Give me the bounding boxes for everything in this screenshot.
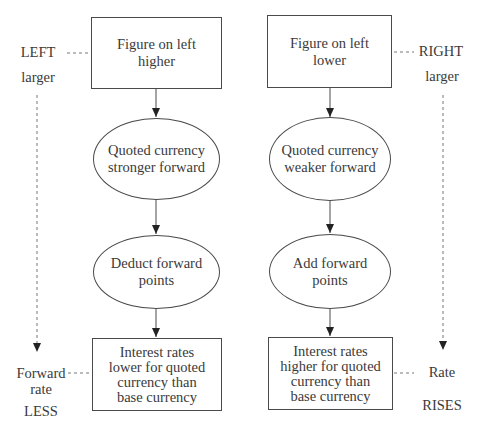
label-rate: rate: [13, 381, 69, 398]
label-right-larger: larger: [418, 68, 466, 85]
left-ellipse-stronger: Quoted currency stronger forward: [93, 118, 220, 200]
left-dashed-arrowhead: [33, 343, 41, 352]
right-ellipse-1-text: Quoted currency weaker forward: [281, 142, 378, 176]
dashed-connectors: [37, 52, 443, 373]
right-ellipse-add: Add forward points: [269, 234, 391, 309]
left-start-box: Figure on left higher: [91, 17, 222, 89]
right-ellipse-weaker: Quoted currency weaker forward: [269, 117, 391, 201]
left-ellipse-2-text: Deduct forward points: [111, 255, 202, 289]
right-end-text: Interest rates higher for quoted currenc…: [280, 344, 381, 404]
label-less: LESS: [13, 403, 69, 420]
left-end-box: Interest rates lower for quoted currency…: [92, 338, 222, 411]
label-left: LEFT: [18, 44, 58, 61]
label-rises: RISES: [416, 397, 468, 414]
connector-layer: [0, 0, 480, 429]
left-end-text: Interest rates lower for quoted currency…: [109, 345, 206, 405]
label-forward: Forward: [13, 365, 69, 382]
right-end-box: Interest rates higher for quoted currenc…: [268, 337, 393, 410]
left-ellipse-1-text: Quoted currency stronger forward: [108, 142, 205, 176]
left-start-text: Figure on left higher: [117, 36, 196, 70]
left-ellipse-deduct: Deduct forward points: [93, 235, 220, 309]
label-left-larger: larger: [16, 69, 60, 86]
right-start-box: Figure on left lower: [267, 15, 392, 88]
right-dashed-arrowhead: [439, 341, 447, 350]
label-rate-right: Rate: [420, 364, 464, 381]
right-ellipse-2-text: Add forward points: [293, 255, 368, 289]
right-start-text: Figure on left lower: [290, 35, 369, 69]
label-right: RIGHT: [416, 43, 466, 60]
